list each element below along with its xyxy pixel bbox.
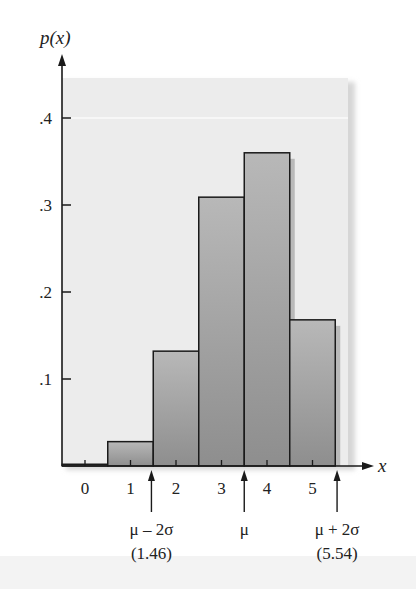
x-tick-label: 0	[81, 479, 90, 498]
histogram-chart: .1.2.3.4 012345 μ – 2σ(1.46)μμ + 2σ(5.54…	[0, 0, 416, 589]
annotation-label: μ – 2σ	[130, 520, 174, 539]
y-axis-arrow-icon	[58, 54, 66, 66]
x-tick-label: 5	[308, 479, 317, 498]
annotation-arrow-icon	[148, 470, 155, 481]
y-tick-label: .4	[39, 109, 52, 128]
y-tick-label: .1	[39, 370, 52, 389]
annotation-value: (5.54)	[317, 544, 358, 563]
x-tick-label: 3	[217, 479, 226, 498]
y-axis-title: p(x)	[38, 27, 71, 49]
x-axis-arrow-icon	[362, 462, 374, 470]
annotation-label: μ	[240, 520, 249, 539]
bar-2	[153, 351, 199, 466]
x-axis-title: x	[377, 455, 387, 476]
bar-5	[290, 320, 336, 466]
bar-3	[199, 197, 245, 466]
annotation-label: μ + 2σ	[315, 520, 360, 539]
x-tick-label: 2	[172, 479, 181, 498]
annotation-arrow-icon	[241, 470, 248, 481]
y-tick-label: .2	[39, 283, 52, 302]
y-tick-label: .3	[39, 196, 52, 215]
annotation-value: (1.46)	[131, 544, 172, 563]
annotations: μ – 2σ(1.46)μμ + 2σ(5.54)	[130, 470, 360, 563]
x-tick-label: 1	[126, 479, 135, 498]
x-tick-label: 4	[263, 479, 272, 498]
bar-4	[244, 153, 290, 466]
annotation-arrow-icon	[334, 470, 341, 481]
